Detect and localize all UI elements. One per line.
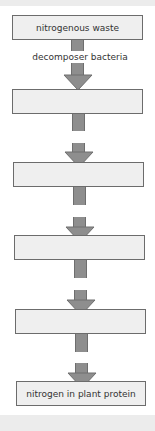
flow-box-nitrogen-in-plant-protein: nitrogen in plant protein	[16, 381, 146, 406]
flow-box-4	[14, 235, 145, 260]
arrow-shaft	[72, 114, 85, 131]
arrow-shaft	[74, 260, 87, 278]
flow-box-5	[15, 309, 146, 334]
arrow-shaft	[75, 334, 88, 352]
bottom-band	[0, 415, 155, 431]
top-band	[0, 0, 155, 6]
box-label: nitrogen in plant protein	[26, 389, 135, 399]
flow-box-3	[13, 162, 144, 187]
box-label: nitrogenous waste	[36, 23, 119, 33]
arrow-shaft	[73, 187, 86, 205]
flow-box-2	[12, 89, 143, 114]
flow-box-nitrogenous-waste: nitrogenous waste	[12, 15, 143, 40]
arrow-label-decomposer-bacteria: decomposer bacteria	[30, 51, 130, 63]
